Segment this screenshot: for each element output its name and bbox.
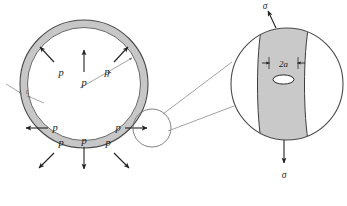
pressure-label-lower-right: p (104, 137, 110, 148)
pressure-label-upper-left: p (57, 67, 63, 78)
pressure-label-upper-right: p (103, 66, 109, 77)
pressure-label-bottom: p (80, 135, 86, 146)
figure-root: r t p p p p p p p (0, 0, 347, 206)
pressure-label-left: p (51, 122, 57, 133)
pressure-label-right: p (114, 122, 120, 133)
stress-label-bottom: σ (282, 170, 287, 180)
crack-ellipse (273, 75, 294, 84)
pressure-vessel-diagram: r t p p p p p p p (0, 0, 347, 206)
stress-label-top: σ (263, 1, 268, 11)
pressure-label-top: p (80, 77, 86, 88)
pressure-label-lower-left: p (57, 137, 63, 148)
meridian-band-group (258, 24, 310, 146)
crack-length-label: 2a (279, 59, 289, 69)
meridian-band-fill (258, 24, 310, 146)
